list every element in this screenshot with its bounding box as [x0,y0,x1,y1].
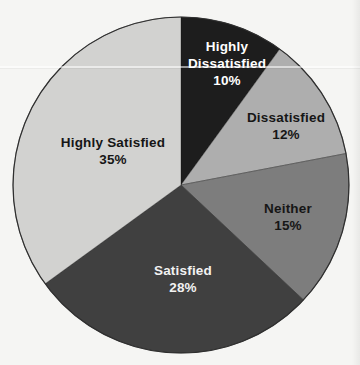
pie-chart-figure: Highly Dissatisfied 10% Dissatisfied 12%… [0,0,360,365]
pie-chart [0,0,360,365]
